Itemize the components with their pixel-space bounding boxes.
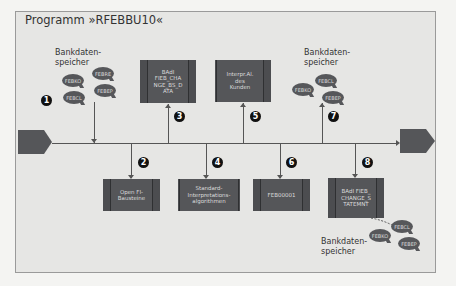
step-box-badi-bs-data: BAdI FIEB_CHA NGE_BS_D ATA <box>140 60 196 103</box>
start-chevron-icon <box>18 130 54 154</box>
arrow-7 <box>319 103 325 107</box>
bubble-febko-1: FEBKO <box>62 74 84 87</box>
bubble-febcl-1: FEBCL <box>63 91 85 104</box>
connector-3 <box>168 104 169 143</box>
step-box-badi-statement: BAdI FIEB_ CHANGE_S TATEMNT <box>328 178 384 218</box>
storage-caption-7: Bankdaten- speicher <box>304 48 350 67</box>
connector-5 <box>243 103 244 143</box>
bubble-febcl-7: FEBCL <box>315 74 337 87</box>
storage-caption-1: Bankdaten- speicher <box>55 48 101 67</box>
step-number-8: 8 <box>362 157 373 168</box>
step-number-5: 5 <box>250 111 261 122</box>
bubble-febep-1: FEBEP <box>94 84 116 97</box>
connector-7 <box>322 103 323 143</box>
bubble-febre-1: FEBRE <box>92 67 114 80</box>
step-number-3: 3 <box>174 111 185 122</box>
step-box-feb00001: FEB00001 <box>253 179 310 211</box>
bubble-febep-8: FEBEP <box>398 237 420 250</box>
connector-8 <box>355 143 356 177</box>
bubble-febko-8: FEBKO <box>369 229 391 242</box>
arrow-5 <box>240 103 246 107</box>
bubble-febep-7: FEBEP <box>322 91 344 104</box>
step-box-customer-algorithm: Interpr.Al. des Kunden <box>215 60 271 102</box>
connector-1 <box>94 102 95 143</box>
connector-4 <box>206 143 207 178</box>
step-box-open-fi: Open FI- Bausteine <box>103 179 160 211</box>
step-number-2: 2 <box>138 157 149 168</box>
step-box-standard-algorithms: Standard- Interpretations- algorithmen <box>178 179 240 211</box>
arrow-1 <box>91 139 97 143</box>
step-number-4: 4 <box>212 157 223 168</box>
bubble-febcl-8: FEBCL <box>391 220 413 233</box>
main-flow-line <box>52 143 398 144</box>
step-number-1: 1 <box>41 95 52 106</box>
step-number-7: 7 <box>328 111 339 122</box>
diagram-title: Programm »RFEBBU10« <box>25 13 163 27</box>
connector-6 <box>280 143 281 178</box>
step-number-6: 6 <box>286 157 297 168</box>
connector-2 <box>131 143 132 178</box>
storage-caption-8: Bankdaten- speicher <box>321 237 367 256</box>
end-chevron-icon <box>400 129 436 153</box>
arrow-3 <box>165 104 171 108</box>
bubble-febko-7: FEBKO <box>292 83 314 96</box>
